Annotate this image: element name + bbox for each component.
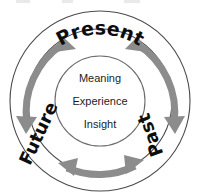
core-label-experience: Experience: [72, 95, 127, 107]
arrow-past-future-head-right: [124, 155, 144, 174]
cycle-diagram-canvas: Present Past Future Meaning Experience I…: [0, 0, 201, 194]
ring-label-present: Present: [52, 17, 148, 50]
arrow-past-future-shaft: [67, 166, 135, 175]
core-label-insight: Insight: [84, 118, 116, 130]
diagram-root: Present Past Future Meaning Experience I…: [0, 0, 201, 194]
core-label-meaning: Meaning: [79, 72, 121, 84]
arrow-present-past-head-bottom: [164, 116, 185, 134]
ring-label-past: Past: [132, 111, 167, 160]
arrow-past-future: [58, 155, 144, 176]
